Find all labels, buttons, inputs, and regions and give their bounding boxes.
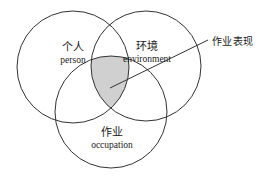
venn-diagram-canvas <box>0 0 265 183</box>
triple-intersection-region <box>0 0 265 183</box>
venn-diagram-figure: 个人 person 环境 environment 作业 occupation 作… <box>0 0 265 183</box>
label-occupation-en: occupation <box>52 141 172 151</box>
label-environment-en: environment <box>87 55 207 65</box>
label-environment: 环境 environment <box>87 41 207 65</box>
callout-label-work-performance: 作业表现 <box>212 33 253 48</box>
label-environment-cn: 环境 <box>87 41 207 53</box>
label-occupation-cn: 作业 <box>52 127 172 139</box>
label-occupation: 作业 occupation <box>52 127 172 151</box>
